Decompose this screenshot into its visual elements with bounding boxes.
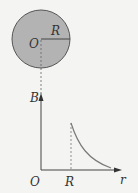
y-axis-arrow-icon	[39, 93, 44, 101]
radius-label: R	[50, 24, 60, 38]
x-axis-arrow-icon	[114, 168, 122, 173]
origin-label: O	[30, 175, 40, 189]
y-axis-label: B	[29, 91, 39, 105]
center-label: O	[29, 37, 39, 51]
x-tick-label: R	[64, 175, 74, 189]
x-axis-label: r	[120, 173, 127, 187]
diagram: R O B O R r	[0, 0, 138, 193]
field-curve	[71, 123, 111, 168]
